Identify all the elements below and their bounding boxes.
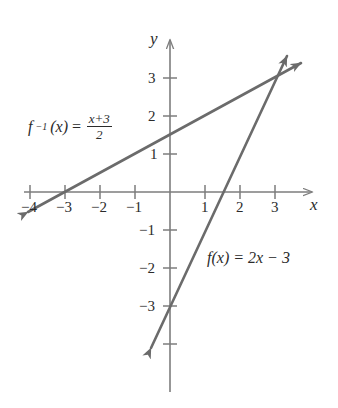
x-tick-label-3: 3: [271, 200, 279, 215]
x-tick-label-2: 2: [236, 200, 244, 215]
y-tick-label-3: 3: [148, 71, 156, 86]
x-tick-label-1: 1: [201, 200, 209, 215]
inverse-function-argument: (x): [50, 119, 68, 135]
x-axis-label: x: [310, 196, 318, 213]
y-axis-label: y: [150, 30, 158, 47]
inverse-function-fraction: x+3 2: [87, 112, 112, 141]
x-tick-label--3: −3: [56, 200, 72, 215]
fraction-numerator: x+3: [87, 112, 112, 127]
y-tick-label-2: 2: [148, 109, 156, 124]
y-tick-label-1: 1: [150, 147, 158, 162]
function-label: f(x) = 2x − 3: [207, 250, 290, 266]
y-tick-label--2: −2: [139, 261, 155, 276]
function-line-f: [151, 56, 287, 348]
inverse-function-equals: =: [71, 119, 82, 135]
x-tick-label--4: −4: [21, 200, 37, 215]
y-tick-label--3: −3: [139, 299, 155, 314]
graph-figure: y x −4 −3 −2 −1 1 2 3 3 2 1 −1 −2 −3 f−1…: [0, 0, 338, 408]
x-tick-label--1: −1: [126, 200, 142, 215]
coordinate-plane: [0, 0, 338, 408]
inverse-function-exponent: −1: [35, 122, 47, 132]
fraction-denominator: 2: [96, 127, 103, 141]
y-tick-label--1: −1: [139, 223, 155, 238]
x-tick-label--2: −2: [91, 200, 107, 215]
inverse-function-name: f: [28, 119, 32, 135]
inverse-function-label: f−1(x) = x+3 2: [28, 112, 112, 141]
